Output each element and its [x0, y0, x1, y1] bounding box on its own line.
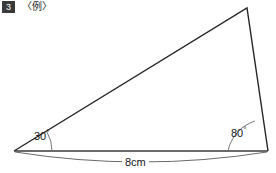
angle-label-30: 30° [34, 128, 49, 142]
angle-label-80: 80° [231, 125, 246, 139]
angle-label-80-value: 80 [231, 127, 243, 139]
triangle-diagram [0, 0, 276, 173]
angle-label-30-value: 30 [34, 130, 46, 142]
degree-symbol-30: ° [46, 128, 49, 137]
base-length-label: 8cm [122, 156, 149, 168]
degree-symbol-80: ° [243, 125, 246, 134]
triangle-outline [14, 8, 268, 151]
figure-canvas: 3 〈例〉 30° 80° 8cm [0, 0, 276, 173]
